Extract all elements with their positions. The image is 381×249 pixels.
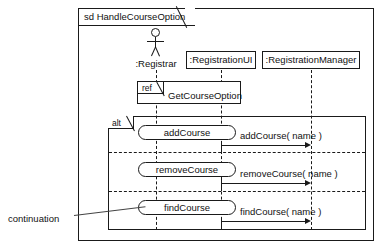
sd-frame-tab-corner: [185, 8, 195, 26]
message-arrowhead-find-course: [305, 218, 311, 224]
message-label-find-course: findCourse( name ): [240, 206, 321, 217]
actor-head-icon: [151, 28, 160, 37]
message-arrowhead-add-course: [305, 142, 311, 148]
sd-frame-label: sd HandleCourseOption: [84, 11, 185, 22]
actor-arms-icon: [147, 41, 164, 42]
ref-fragment-label: GetCourseOption: [168, 90, 242, 101]
alt-operand-separator-2: [109, 191, 365, 192]
actor-leg-right-icon: [155, 47, 160, 57]
lifeline-label-registrar: :Registrar: [124, 58, 188, 69]
activation-stub-3: [221, 217, 222, 229]
lifeline-head-registrationui[interactable]: :RegistrationUI: [186, 51, 256, 69]
message-label-remove-course: removeCourse( name ): [240, 168, 338, 179]
message-arrowhead-remove-course: [305, 180, 311, 186]
sequence-diagram-canvas: sd HandleCourseOption :Registrar :Regist…: [0, 0, 381, 249]
alt-operand-separator-1: [109, 152, 365, 153]
ref-fragment-keyword: ref: [142, 83, 152, 93]
message-arrow-add-course: [221, 145, 309, 146]
alt-fragment-keyword: alt: [112, 118, 121, 128]
continuation-find-course[interactable]: findCourse: [138, 200, 236, 215]
actor-icon: [145, 28, 167, 56]
message-arrow-find-course: [221, 221, 309, 222]
activation-stub-1: [221, 141, 222, 153]
ref-fragment: ref GetCourseOption: [137, 81, 241, 104]
continuation-remove-course[interactable]: removeCourse: [138, 162, 236, 177]
lifeline-head-registrationmanager[interactable]: :RegistrationManager: [262, 51, 360, 69]
message-label-add-course: addCourse( name ): [240, 130, 322, 141]
message-arrow-remove-course: [221, 183, 309, 184]
continuation-add-course[interactable]: addCourse: [138, 125, 236, 140]
annotation-label-continuation: continuation: [8, 213, 59, 224]
activation-stub-2: [221, 179, 222, 191]
